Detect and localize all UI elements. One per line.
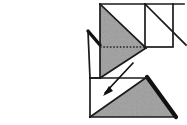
origami-figure bbox=[0, 0, 187, 125]
origami-diagram-svg bbox=[0, 0, 187, 125]
region-fills bbox=[88, 4, 185, 117]
